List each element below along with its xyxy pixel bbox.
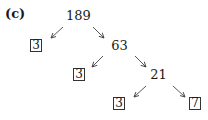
arrow-icon [51, 27, 63, 38]
arrow-icon [135, 56, 146, 67]
arrow-icon [93, 27, 104, 38]
arrow-icon [134, 86, 146, 97]
arrow-icon [173, 86, 185, 97]
arrow-icon [92, 56, 103, 67]
tree-edges [0, 0, 208, 120]
